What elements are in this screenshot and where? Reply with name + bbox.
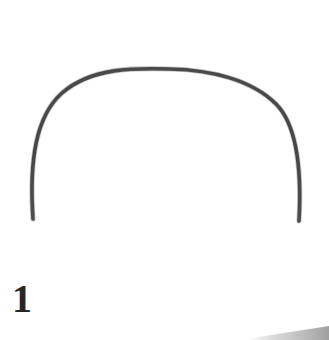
- specimen-number-label: 1: [12, 279, 32, 319]
- plate-background: [0, 0, 329, 340]
- artifact-illustration: [0, 0, 329, 340]
- specimen-plate: 1: [0, 0, 329, 340]
